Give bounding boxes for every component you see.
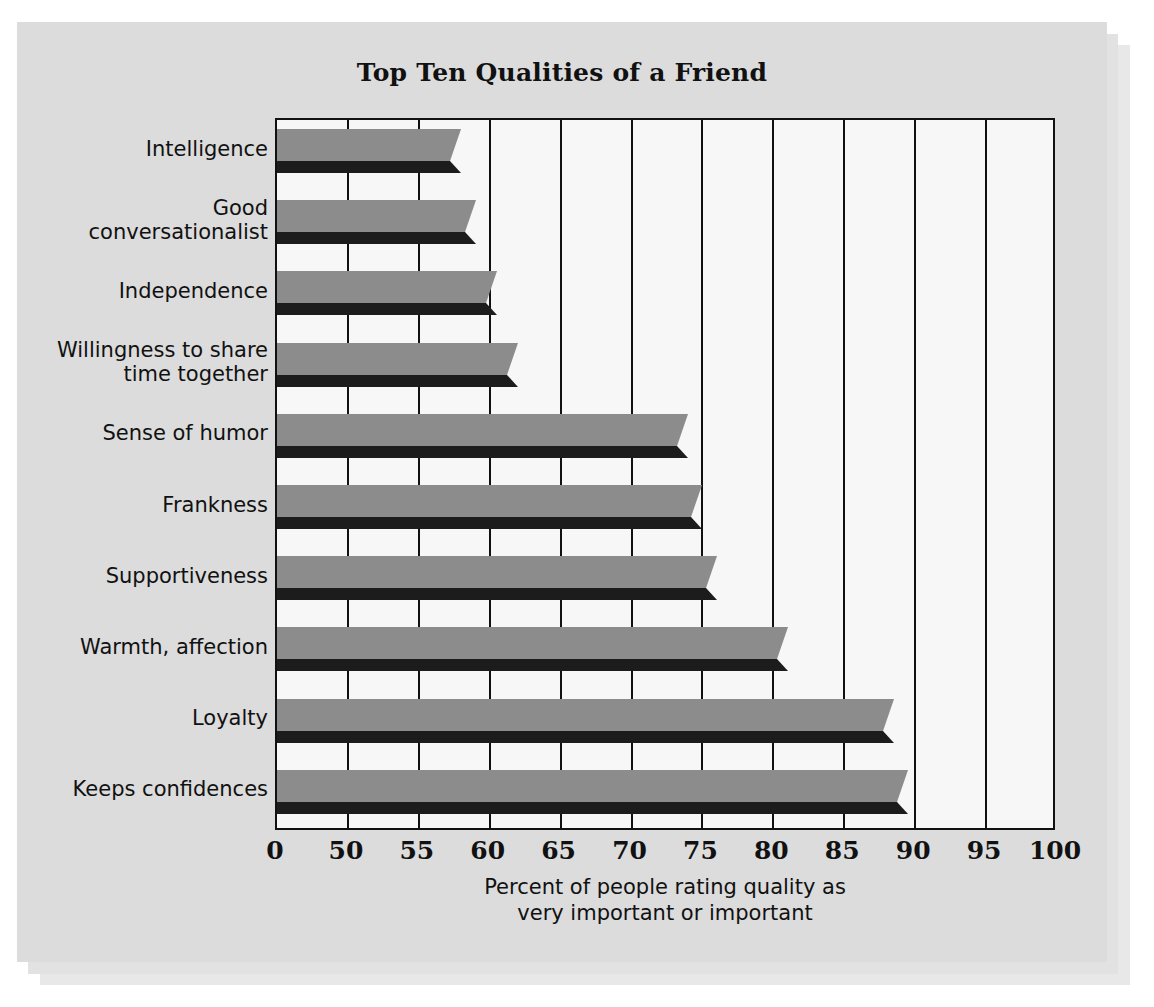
bar-cap-top	[897, 770, 908, 802]
bar-face	[277, 627, 777, 659]
category-label-supportiveness: Supportiveness	[20, 565, 268, 589]
category-label-line: Sense of humor	[20, 422, 268, 446]
bar-independence	[277, 271, 486, 315]
category-label-intelligence: Intelligence	[20, 138, 268, 162]
bar-shadow	[277, 659, 777, 671]
page-title: Top Ten Qualities of a Friend	[17, 58, 1107, 87]
category-label-line: Good	[20, 197, 268, 221]
x-tick-80: 80	[754, 836, 789, 865]
category-label-loyalty: Loyalty	[20, 707, 268, 731]
bar-face	[277, 129, 450, 161]
bar-cap-bottom	[465, 232, 476, 244]
x-tick-95: 95	[967, 836, 1002, 865]
bar-willingness-to-share-time-together	[277, 343, 507, 387]
bar-shadow	[277, 517, 691, 529]
category-label-line: Loyalty	[20, 707, 268, 731]
bar-cap-top	[706, 556, 717, 588]
bar-face	[277, 271, 486, 303]
category-label-independence: Independence	[20, 280, 268, 304]
category-label-line: Supportiveness	[20, 565, 268, 589]
bar-row	[277, 476, 1057, 547]
bar-row	[277, 618, 1057, 689]
bar-row	[277, 405, 1057, 476]
bar-shadow	[277, 375, 507, 387]
x-tick-100: 100	[1029, 836, 1081, 865]
bar-cap-bottom	[883, 731, 894, 743]
bar-cap-top	[883, 699, 894, 731]
category-label-line: Willingness to share	[20, 339, 268, 363]
bar-frankness	[277, 485, 691, 529]
bar-row	[277, 120, 1057, 191]
bar-cap-top	[450, 129, 461, 161]
bar-face	[277, 770, 897, 802]
category-label-line: Independence	[20, 280, 268, 304]
bar-good-conversationalist	[277, 200, 465, 244]
x-tick-85: 85	[825, 836, 860, 865]
category-label-line: Keeps confidences	[20, 778, 268, 802]
category-label-willingness-to-share-time-together: Willingness to sharetime together	[20, 339, 268, 387]
x-tick-60: 60	[470, 836, 505, 865]
bar-row	[277, 547, 1057, 618]
bar-shadow	[277, 446, 677, 458]
bar-shadow	[277, 232, 465, 244]
bar-shadow	[277, 802, 897, 814]
bar-shadow	[277, 588, 706, 600]
bar-face	[277, 200, 465, 232]
bar-cap-top	[691, 485, 702, 517]
category-label-frankness: Frankness	[20, 494, 268, 518]
bar-cap-top	[486, 271, 497, 303]
x-axis-title: Percent of people rating quality as very…	[275, 874, 1055, 927]
bar-supportiveness	[277, 556, 706, 600]
bar-face	[277, 343, 507, 375]
x-tick-55: 55	[399, 836, 434, 865]
bar-row	[277, 191, 1057, 262]
bar-cap-bottom	[507, 375, 518, 387]
category-label-line: conversationalist	[20, 221, 268, 245]
bar-cap-top	[777, 627, 788, 659]
x-axis-title-line-2: very important or important	[275, 900, 1055, 926]
x-tick-90: 90	[896, 836, 931, 865]
bar-keeps-confidences	[277, 770, 897, 814]
bar-shadow	[277, 161, 450, 173]
bar-face	[277, 699, 883, 731]
x-tick-65: 65	[541, 836, 576, 865]
bar-face	[277, 485, 691, 517]
bar-shadow	[277, 731, 883, 743]
x-tick-50: 50	[329, 836, 364, 865]
bar-cap-bottom	[777, 659, 788, 671]
bar-face	[277, 556, 706, 588]
bar-row	[277, 262, 1057, 333]
bar-cap-top	[465, 200, 476, 232]
bar-cap-bottom	[677, 446, 688, 458]
bar-row	[277, 334, 1057, 405]
bar-sense-of-humor	[277, 414, 677, 458]
bar-row	[277, 761, 1057, 832]
plot-area	[275, 118, 1055, 830]
category-label-line: Intelligence	[20, 138, 268, 162]
x-tick-0: 0	[266, 836, 283, 865]
category-label-keeps-confidences: Keeps confidences	[20, 778, 268, 802]
category-label-line: time together	[20, 363, 268, 387]
x-axis-title-line-1: Percent of people rating quality as	[275, 874, 1055, 900]
bar-cap-bottom	[486, 303, 497, 315]
x-tick-75: 75	[683, 836, 718, 865]
x-tick-70: 70	[612, 836, 647, 865]
bar-face	[277, 414, 677, 446]
bar-warmth-affection	[277, 627, 777, 671]
chart-page: Top Ten Qualities of a Friend Intelligen…	[0, 0, 1154, 1007]
bar-cap-bottom	[706, 588, 717, 600]
bar-intelligence	[277, 129, 450, 173]
bar-cap-bottom	[691, 517, 702, 529]
bar-cap-bottom	[450, 161, 461, 173]
bar-row	[277, 690, 1057, 761]
bar-cap-bottom	[897, 802, 908, 814]
bar-loyalty	[277, 699, 883, 743]
category-label-line: Warmth, affection	[20, 636, 268, 660]
category-label-line: Frankness	[20, 494, 268, 518]
bar-cap-top	[507, 343, 518, 375]
category-label-sense-of-humor: Sense of humor	[20, 422, 268, 446]
bar-shadow	[277, 303, 486, 315]
category-label-good-conversationalist: Goodconversationalist	[20, 197, 268, 245]
category-label-warmth-affection: Warmth, affection	[20, 636, 268, 660]
bar-cap-top	[677, 414, 688, 446]
